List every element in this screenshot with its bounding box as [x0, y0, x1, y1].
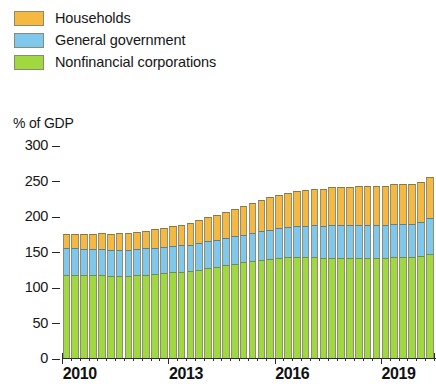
bar-segment-nonfinancial-corporations	[355, 258, 363, 359]
legend-label-households: Households	[55, 10, 131, 26]
bar-column	[266, 146, 275, 359]
bar-segment-general-government	[390, 224, 398, 257]
bar-segment-nonfinancial-corporations	[80, 275, 88, 359]
y-axis-tick-label: 250	[25, 173, 48, 189]
bar-column	[372, 146, 381, 359]
legend-label-general-government: General government	[55, 32, 185, 48]
bar-segment-nonfinancial-corporations	[426, 254, 434, 359]
bar-segment-nonfinancial-corporations	[213, 267, 221, 359]
bar-segment-nonfinancial-corporations	[258, 260, 266, 359]
bar-column	[310, 146, 319, 359]
x-axis-tick-mark	[372, 358, 373, 361]
bar-segment-general-government	[275, 228, 283, 258]
bar-segment-general-government	[373, 225, 381, 258]
bar-segment-general-government	[133, 249, 141, 275]
x-axis-tick-mark	[80, 358, 81, 361]
bar-segment-general-government	[231, 236, 239, 264]
bar-column	[71, 146, 80, 359]
legend-swatch-nonfinancial-corporations	[14, 55, 44, 70]
bar-column	[408, 146, 417, 359]
bar-segment-nonfinancial-corporations	[169, 272, 177, 359]
bar-segment-general-government	[328, 225, 336, 258]
bar-segment-general-government	[178, 245, 186, 271]
bar-segment-nonfinancial-corporations	[302, 257, 310, 359]
x-axis-tick-mark	[425, 358, 426, 361]
bar-column	[257, 146, 266, 359]
bar-segment-general-government	[266, 230, 274, 259]
x-axis-tick-mark	[292, 358, 293, 361]
bar-segment-general-government	[222, 238, 230, 265]
bar-segment-households	[213, 215, 221, 240]
bar-column	[239, 146, 248, 359]
x-axis-tick-mark	[390, 358, 391, 361]
bar-segment-general-government	[320, 226, 328, 259]
plot-area	[62, 146, 434, 359]
bar-segment-nonfinancial-corporations	[417, 256, 425, 359]
x-axis-tick-label: 2010	[63, 365, 97, 383]
bar-segment-general-government	[116, 250, 124, 276]
bar-segment-households	[169, 226, 177, 246]
x-axis-tick-mark	[195, 358, 196, 361]
x-axis-tick-mark	[337, 358, 338, 361]
bar-segment-nonfinancial-corporations	[116, 276, 124, 359]
bar-segment-general-government	[125, 250, 133, 276]
y-axis-tick-mark	[52, 146, 60, 147]
bar-segment-nonfinancial-corporations	[160, 273, 168, 359]
x-axis-tick-mark	[106, 358, 107, 361]
legend-swatch-general-government	[14, 33, 44, 48]
bar-segment-general-government	[89, 249, 97, 275]
bar-segment-households	[373, 186, 381, 225]
bar-segment-households	[231, 209, 239, 236]
bar-segment-nonfinancial-corporations	[382, 258, 390, 359]
bar-column	[346, 146, 355, 359]
bar-column	[133, 146, 142, 359]
legend-swatch-households	[14, 11, 44, 26]
bar-segment-households	[89, 234, 97, 249]
bar-segment-nonfinancial-corporations	[320, 258, 328, 359]
bar-segment-nonfinancial-corporations	[107, 276, 115, 359]
x-axis-tick-mark	[133, 358, 134, 361]
y-axis-tick-label: 100	[25, 279, 48, 295]
bar-column	[301, 146, 310, 359]
bar-segment-nonfinancial-corporations	[399, 257, 407, 359]
legend-label-nonfinancial-corporations: Nonfinancial corporations	[55, 54, 216, 70]
x-axis-labels: 2010201320162019	[62, 365, 434, 389]
x-axis-tick-label: 2013	[169, 365, 203, 383]
bar-segment-households	[382, 186, 390, 225]
bar-segment-general-government	[364, 225, 372, 258]
bar-segment-households	[275, 195, 283, 228]
bar-column	[399, 146, 408, 359]
bar-segment-households	[160, 228, 168, 247]
bar-column	[381, 146, 390, 359]
bar-column	[221, 146, 230, 359]
bar-segment-households	[195, 220, 203, 243]
bar-segment-general-government	[63, 248, 71, 274]
bar-segment-nonfinancial-corporations	[178, 272, 186, 359]
bar-segment-households	[258, 200, 266, 231]
bar-segment-general-government	[160, 247, 168, 273]
y-axis-tick-mark	[52, 217, 60, 218]
bar-segment-nonfinancial-corporations	[328, 258, 336, 359]
bar-segment-households	[71, 234, 79, 248]
x-axis-tick-mark	[248, 358, 249, 361]
bar-segment-households	[63, 234, 71, 248]
bar-column	[106, 146, 115, 359]
bar-segment-nonfinancial-corporations	[373, 258, 381, 359]
bar-segment-nonfinancial-corporations	[63, 275, 71, 359]
bar-segment-households	[187, 223, 195, 245]
bar-segment-nonfinancial-corporations	[71, 275, 79, 359]
bar-column	[97, 146, 106, 359]
bar-segment-nonfinancial-corporations	[222, 265, 230, 359]
bar-column	[283, 146, 292, 359]
bar-column	[204, 146, 213, 359]
bar-segment-general-government	[249, 233, 257, 261]
bar-segment-households	[222, 212, 230, 238]
x-axis-tick-mark	[416, 358, 417, 361]
x-axis-tick-mark	[275, 358, 276, 364]
bar-segment-households	[346, 187, 354, 225]
bar-segment-general-government	[204, 241, 212, 268]
bar-column	[195, 146, 204, 359]
y-axis-tick-label: 200	[25, 208, 48, 224]
bar-column	[230, 146, 239, 359]
bar-segment-nonfinancial-corporations	[240, 262, 248, 359]
